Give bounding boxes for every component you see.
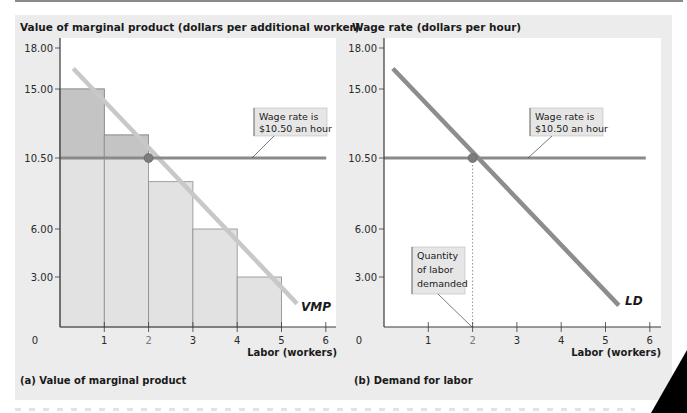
x-axis-title-a: Labor (workers) [247, 347, 337, 358]
y-tick-label: 18.00 [24, 43, 53, 54]
panel-caption-b: (b) Demand for labor [354, 375, 473, 386]
figure-charts: 3.006.0010.5015.0018.000123456 Value of … [0, 0, 687, 413]
curve-label-ld: LD [625, 294, 643, 308]
y-axis-title-b: Wage rate (dollars per hour) [352, 21, 521, 33]
x-tick-label: 3 [514, 335, 520, 346]
y-tick-label: 6.00 [355, 224, 377, 235]
x-tick-label: 6 [323, 335, 329, 346]
y-tick-label: 3.00 [355, 272, 377, 283]
x-tick-label: 5 [278, 335, 284, 346]
wage-annotation-b-line1: Wage rate is [535, 111, 594, 122]
wage-annotation-a-line2: $10.50 an hour [259, 123, 332, 134]
y-tick-label: 15.00 [348, 84, 377, 95]
equilibrium-point [144, 154, 153, 163]
x-axis-title-b: Labor (workers) [571, 347, 661, 358]
equilibrium-point [468, 154, 477, 163]
panel-caption-a: (a) Value of marginal product [20, 375, 186, 386]
vmp-bar [193, 229, 237, 327]
x-tick-label: 2 [145, 335, 151, 346]
page-corner-triangle [651, 350, 687, 413]
quantity-annotation-line2: of labor [417, 264, 453, 275]
x-tick-label: 2 [469, 335, 475, 346]
y-tick-label: 15.00 [24, 84, 53, 95]
curve-label-vmp: VMP [301, 300, 331, 314]
x-tick-label: 5 [602, 335, 608, 346]
x-tick-label: 6 [647, 335, 653, 346]
vmp-bar [237, 277, 281, 327]
y-tick-label: 18.00 [348, 43, 377, 54]
y-tick-label: 3.00 [31, 272, 53, 283]
x-tick-label: 1 [101, 335, 107, 346]
quantity-annotation-line1: Quantity [417, 250, 458, 261]
y-tick-label: 6.00 [31, 224, 53, 235]
panel-b-demand-for-labor: 3.006.0010.5015.0018.000123456 Wage rate… [348, 21, 661, 386]
x-tick-label: 0 [356, 335, 362, 346]
vmp-bar-surplus [60, 89, 104, 158]
x-tick-label: 4 [234, 335, 240, 346]
y-tick-label: 10.50 [24, 153, 53, 164]
wage-annotation-a-line1: Wage rate is [259, 111, 318, 122]
cropped-text-strip [15, 408, 635, 411]
x-tick-label: 3 [190, 335, 196, 346]
wage-annotation-b-line2: $10.50 an hour [535, 123, 608, 134]
y-axis-title-a: Value of marginal product (dollars per a… [20, 21, 359, 33]
quantity-annotation-line3: demanded [417, 278, 468, 289]
vmp-bar [104, 135, 148, 327]
vmp-bar [149, 182, 193, 327]
x-tick-label: 1 [425, 335, 431, 346]
x-tick-label: 0 [32, 335, 38, 346]
y-tick-label: 10.50 [348, 153, 377, 164]
x-tick-label: 4 [558, 335, 564, 346]
panel-a-value-of-marginal-product: 3.006.0010.5015.0018.000123456 Value of … [20, 21, 359, 386]
